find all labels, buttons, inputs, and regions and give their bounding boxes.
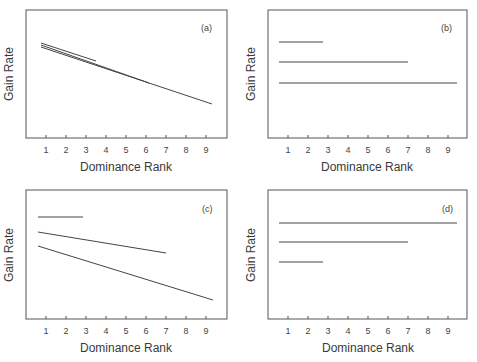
y-axis-title: Gain Rate (244, 228, 258, 282)
x-axis-title: Dominance Rank (322, 341, 415, 355)
chart-b: (b) 1 2 3 4 5 6 7 8 9 Dominance Rank Gai… (0, 0, 477, 180)
tick-label: 9 (445, 326, 450, 336)
panel-d: (d) 1 2 3 4 5 6 7 8 9 Dominance Rank Gai… (0, 180, 477, 362)
tick-label: 6 (385, 145, 390, 155)
tick-label: 4 (345, 145, 350, 155)
tick-label: 2 (305, 145, 310, 155)
panel-tag: (d) (442, 204, 453, 214)
panel-tag: (b) (441, 23, 452, 33)
tick-label: 2 (305, 326, 310, 336)
tick-label: 8 (425, 145, 430, 155)
tick-label: 6 (385, 326, 390, 336)
chart-d: (d) 1 2 3 4 5 6 7 8 9 Dominance Rank Gai… (0, 180, 477, 362)
tick-label: 3 (325, 326, 330, 336)
tick-label: 7 (405, 326, 410, 336)
tick-label: 1 (285, 326, 290, 336)
tick-label: 3 (325, 145, 330, 155)
tick-label: 8 (425, 326, 430, 336)
tick-label: 5 (365, 145, 370, 155)
tick-label: 4 (345, 326, 350, 336)
tick-label: 1 (285, 145, 290, 155)
y-axis-title: Gain Rate (244, 47, 258, 101)
tick-label: 5 (365, 326, 370, 336)
x-axis-title: Dominance Rank (321, 160, 414, 174)
tick-label: 9 (445, 145, 450, 155)
tick-label: 7 (405, 145, 410, 155)
panel-b: (b) 1 2 3 4 5 6 7 8 9 Dominance Rank Gai… (0, 0, 477, 180)
